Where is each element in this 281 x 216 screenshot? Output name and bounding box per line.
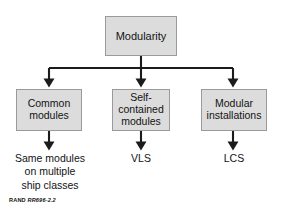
node-self-contained-modules: Self- contained modules [112,89,170,131]
caption-figure-id: RR696-2.2 [27,197,55,203]
leaf-label-vls: VLS [113,152,169,165]
node-modularity: Modularity [105,16,177,56]
node-common-modules: Common modules [16,89,82,131]
diagram-canvas: Modularity Common modules Self- containe… [0,0,281,216]
source-caption: RAND RR696-2.2 [9,197,56,203]
node-modular-installations: Modular installations [201,89,267,131]
leaf-label-same-modules: Same modules on multiple ship classes [4,152,96,192]
leaf-label-lcs: LCS [203,152,265,165]
caption-brand: RAND [9,197,26,203]
